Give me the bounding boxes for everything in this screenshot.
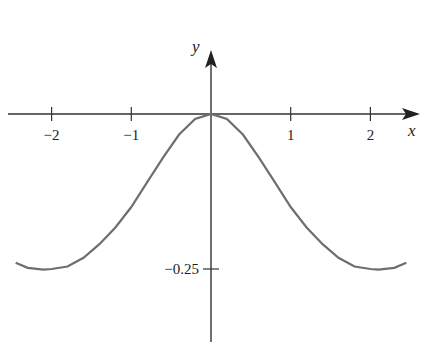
x-tick-label: −2 [44,127,60,143]
chart: −2−112−0.25xy [0,0,436,355]
y-axis-label: y [190,37,200,56]
x-tick-label: 1 [287,127,295,143]
y-tick-label: −0.25 [164,261,199,277]
axes: −2−112−0.25xy [8,37,420,342]
x-tick-label: 2 [367,127,375,143]
x-axis-label: x [407,121,416,140]
plot-area: −2−112−0.25xy [0,0,436,355]
x-tick-label: −1 [123,127,139,143]
